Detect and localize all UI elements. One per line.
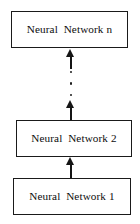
ellipsis-dot [70,94,72,96]
ellipsis-dot [70,71,72,73]
neural-network-2-box: Neural Network 2 [16,120,132,157]
arrow-shaft [70,161,72,179]
arrow-shaft [70,53,72,69]
neural-network-n-box: Neural Network n [11,11,128,48]
arrow-to-ellipsis [64,100,77,121]
arrow-to-neural-network-2 [64,157,77,179]
arrow-shaft [70,104,72,121]
ellipsis-dot [70,82,72,84]
neural-network-n-label: Neural Network n [27,24,112,35]
neural-network-1-label: Neural Network 1 [29,191,114,202]
neural-network-cascade-diagram: Neural Network n Neural Network 2 Neural… [0,0,140,224]
neural-network-1-box: Neural Network 1 [13,178,131,215]
arrow-to-neural-network-n [64,49,77,69]
neural-network-2-label: Neural Network 2 [31,133,116,144]
vertical-ellipsis-icon [69,71,74,96]
